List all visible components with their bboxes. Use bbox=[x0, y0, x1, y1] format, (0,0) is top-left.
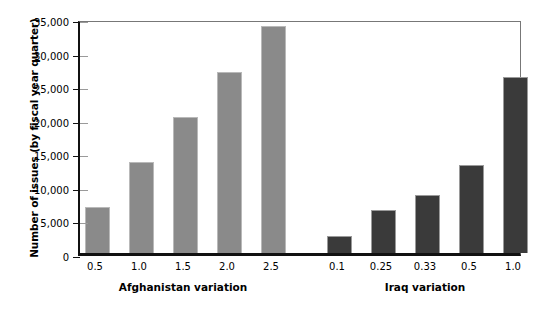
bar bbox=[129, 162, 154, 253]
y-tick-inner-mark bbox=[80, 56, 88, 57]
y-tick-mark: 25,000 bbox=[73, 89, 80, 90]
y-tick-label: 30,000 bbox=[34, 52, 69, 62]
x-tick-label: 0.25 bbox=[359, 262, 403, 272]
y-tick-label: 0 bbox=[63, 253, 69, 263]
y-tick-mark: 10,000 bbox=[73, 190, 80, 191]
y-tick-mark: 30,000 bbox=[73, 56, 80, 57]
y-tick-label: 10,000 bbox=[34, 186, 69, 196]
y-tick-inner-mark bbox=[80, 156, 88, 157]
y-tick-label: 20,000 bbox=[34, 119, 69, 129]
x-tick-label: 1.5 bbox=[161, 262, 205, 272]
x-tick-label: 0.5 bbox=[73, 262, 117, 272]
y-tick-mark: 20,000 bbox=[73, 123, 80, 124]
y-tick-label: 35,000 bbox=[34, 18, 69, 28]
bar bbox=[261, 26, 286, 253]
bar bbox=[415, 195, 440, 253]
bar bbox=[173, 117, 198, 253]
y-tick-mark: 5,000 bbox=[73, 223, 80, 224]
bar bbox=[85, 207, 110, 253]
group-label-iraq: Iraq variation bbox=[315, 282, 534, 293]
y-tick-label: 15,000 bbox=[34, 152, 69, 162]
x-tick-label: 1.0 bbox=[491, 262, 534, 272]
y-tick-inner-mark bbox=[80, 190, 88, 191]
y-tick-inner-mark bbox=[80, 89, 88, 90]
x-tick-label: 0.1 bbox=[315, 262, 359, 272]
y-tick-mark: 0 bbox=[73, 257, 80, 258]
x-tick-label: 0.33 bbox=[403, 262, 447, 272]
plot-area: 05,00010,00015,00020,00025,00030,00035,0… bbox=[78, 21, 521, 256]
x-tick-label: 2.0 bbox=[205, 262, 249, 272]
bar bbox=[503, 77, 528, 253]
bar bbox=[217, 72, 242, 253]
bar-chart-figure: Number of issues (by fiscal year quarter… bbox=[0, 0, 534, 313]
x-tick-label: 2.5 bbox=[249, 262, 293, 272]
y-tick-label: 25,000 bbox=[34, 85, 69, 95]
bar bbox=[371, 210, 396, 253]
group-label-afghanistan: Afghanistan variation bbox=[73, 282, 293, 293]
y-tick-inner-mark bbox=[80, 22, 88, 23]
y-tick-inner-mark bbox=[80, 223, 88, 224]
y-tick-mark: 35,000 bbox=[73, 22, 80, 23]
bar bbox=[459, 165, 484, 253]
y-tick-inner-mark bbox=[80, 123, 88, 124]
y-tick-mark: 15,000 bbox=[73, 156, 80, 157]
y-tick-label: 5,000 bbox=[40, 219, 69, 229]
bar bbox=[327, 236, 352, 253]
bars-layer bbox=[80, 22, 520, 253]
y-axis-title: Number of issues (by fiscal year quarter… bbox=[28, 8, 40, 268]
x-tick-label: 0.5 bbox=[447, 262, 491, 272]
x-tick-label: 1.0 bbox=[117, 262, 161, 272]
